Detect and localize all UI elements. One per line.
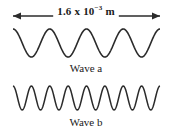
wave-b-label: Wave b	[0, 116, 172, 128]
wave-b-curve	[13, 86, 160, 110]
dimension-mantissa: 1.6 x 10	[57, 5, 94, 17]
dimension-label: 1.6 x 10−3 m	[0, 5, 172, 18]
wave-a-label: Wave a	[0, 62, 172, 74]
wave-a-curve	[13, 29, 160, 57]
dimension-unit: m	[102, 5, 114, 17]
wave-comparison-figure: 1.6 x 10−3 m Wave a Wave b	[0, 0, 172, 138]
